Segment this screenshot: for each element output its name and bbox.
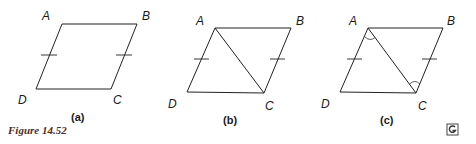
panel-b: A B C D (b)	[168, 14, 304, 126]
vertex-label-b: B	[447, 14, 455, 28]
vertex-label-d: D	[18, 93, 27, 107]
vertex-label-c: C	[418, 99, 427, 113]
figure-canvas: A B C D (a) A B C D (b) A B C D (c) Figu…	[0, 0, 476, 144]
panel-a: A B C D (a)	[18, 9, 150, 123]
panel-caption-c: (c)	[380, 114, 394, 126]
angle-mark-c	[410, 82, 421, 85]
G-logo-icon	[447, 124, 458, 135]
diagonal-ac	[215, 28, 264, 93]
vertex-label-a: A	[41, 9, 50, 23]
angle-mark-a	[365, 37, 376, 40]
figure-title: Figure 14.52	[7, 124, 67, 136]
vertex-label-c: C	[113, 93, 122, 107]
vertex-label-a: A	[348, 14, 357, 28]
vertex-label-d: D	[321, 97, 330, 111]
vertex-label-d: D	[168, 97, 177, 111]
panel-c: A B C D (c)	[321, 14, 455, 126]
vertex-label-b: B	[296, 14, 304, 28]
parallelogram-abcd	[36, 24, 137, 89]
panel-caption-b: (b)	[223, 114, 237, 126]
vertex-label-b: B	[142, 9, 150, 23]
vertex-label-c: C	[265, 99, 274, 113]
vertex-label-a: A	[195, 14, 204, 28]
panel-caption-a: (a)	[71, 111, 85, 123]
